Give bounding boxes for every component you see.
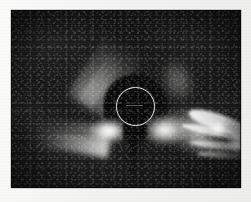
occulter-pylon [129,136,138,188]
cme-bright-knot-a [207,122,229,136]
coronagraph-field [11,10,241,188]
streamer-west-core [69,114,123,148]
limb-center-tick [126,105,143,106]
solar-limb-circle [116,87,155,126]
coronagraph-image-page [0,0,251,202]
